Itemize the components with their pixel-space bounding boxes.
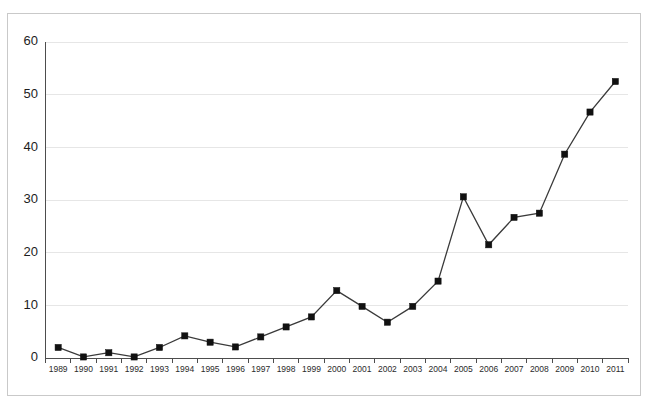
x-tick-label: 2005 (454, 364, 473, 374)
y-tick-label: 0 (31, 349, 38, 364)
x-tick-label: 1989 (49, 364, 68, 374)
data-point (106, 350, 112, 356)
y-tick-label: 40 (24, 139, 38, 154)
y-tick-label: 50 (24, 86, 38, 101)
data-point (562, 151, 568, 157)
x-tick-label: 2010 (581, 364, 600, 374)
data-point (55, 344, 61, 350)
x-tick-label: 1997 (251, 364, 270, 374)
data-point (80, 354, 86, 360)
x-tick-label: 2002 (378, 364, 397, 374)
data-point (156, 344, 162, 350)
gridlines (46, 42, 629, 305)
x-tick-label: 1996 (226, 364, 245, 374)
x-tick-label: 1993 (150, 364, 169, 374)
data-point (587, 109, 593, 115)
y-tick-label: 20 (24, 244, 38, 259)
x-tick-label: 2003 (403, 364, 422, 374)
data-point (536, 210, 542, 216)
y-tick-label: 10 (24, 297, 38, 312)
x-tick-label: 1994 (175, 364, 194, 374)
data-series (58, 82, 615, 357)
x-tick-label: 2001 (353, 364, 372, 374)
data-point (435, 278, 441, 284)
y-tick-label: 30 (24, 191, 38, 206)
x-tick-label: 1991 (99, 364, 118, 374)
x-tick-label: 1995 (201, 364, 220, 374)
y-axis-tick-labels: 0102030405060 (24, 33, 38, 364)
data-point (334, 287, 340, 293)
data-point (511, 214, 517, 220)
data-point (308, 314, 314, 320)
x-tick-label: 2006 (479, 364, 498, 374)
data-point (207, 339, 213, 345)
x-tick-label: 1990 (74, 364, 93, 374)
data-point (410, 303, 416, 309)
y-tick-label: 60 (24, 33, 38, 48)
line-chart-plot: 0102030405060 19891990199119921993199419… (0, 0, 649, 410)
x-tick-label: 2000 (327, 364, 346, 374)
data-point (232, 344, 238, 350)
x-tick-label: 2009 (555, 364, 574, 374)
x-tick-label: 1992 (125, 364, 144, 374)
x-tick-label: 2007 (505, 364, 524, 374)
data-point (258, 334, 264, 340)
data-point (131, 354, 137, 360)
x-tick-label: 2011 (606, 364, 625, 374)
x-tick-label: 1999 (302, 364, 321, 374)
x-tick-label: 1998 (277, 364, 296, 374)
data-point (384, 319, 390, 325)
data-point (283, 324, 289, 330)
x-axis-tick-labels: 1989199019911992199319941995199619971998… (49, 364, 625, 374)
data-point (612, 78, 618, 84)
data-point (182, 333, 188, 339)
data-point (486, 242, 492, 248)
x-tick-label: 2004 (429, 364, 448, 374)
chart-container: 0102030405060 19891990199119921993199419… (0, 0, 649, 410)
x-tick-label: 2008 (530, 364, 549, 374)
data-markers (55, 78, 618, 360)
data-point (359, 303, 365, 309)
data-point (460, 194, 466, 200)
